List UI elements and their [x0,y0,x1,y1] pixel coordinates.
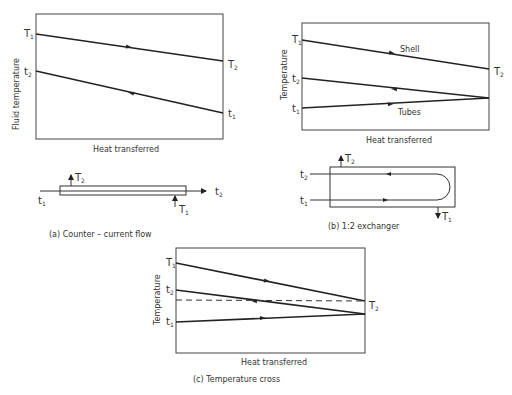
label-T2: T2 [227,59,238,71]
arrow-right-icon [383,198,388,202]
caption-a: (a) Counter – current flow [49,230,152,239]
cold-fluid-line [36,71,223,113]
x-axis-label: Heat transferred [241,358,307,367]
x-axis-label: Heat transferred [93,145,159,154]
schem-T1: T1 [441,211,452,223]
caption-b: (b) 1:2 exchanger [328,222,400,231]
label-t2: t2 [166,284,174,296]
schem-T2: T2 [344,153,355,165]
label-T1: T1 [165,257,176,269]
heat-exchanger-diagrams: T1 T2 t2 t1 Fluid temperature Heat trans… [0,0,512,395]
schem-t2: t2 [215,186,223,198]
label-t1: t1 [166,316,174,328]
shell-label: Shell [400,45,420,54]
label-T2: T2 [368,300,379,312]
label-t2: t2 [292,73,300,85]
panel-b-1-2-exchanger: Shell Tubes T1 T2 t2 t1 Temperature Heat… [280,23,504,231]
u-tube [310,174,450,200]
label-t2: t2 [24,66,32,78]
tubes-label: Tubes [397,108,421,117]
shell-box [330,167,455,207]
label-T2: T2 [493,66,504,78]
schem-t1: t1 [38,195,46,207]
y-axis-label: Temperature [280,49,289,101]
tube-pass-1-line [302,98,489,108]
schem-T1: T1 [178,204,189,216]
panel-c-temperature-cross: T1 T2 t2 t1 Temperature Heat transferred… [153,248,379,384]
tube-pass-2-line [176,290,365,314]
schem-T2: T2 [74,172,85,184]
label-t1: t1 [292,103,300,115]
cross-reference-dashed-line [176,300,365,301]
plot-frame-b [302,23,489,130]
x-axis-label: Heat transferred [366,136,432,145]
y-axis-label: Fluid temperature [12,58,21,130]
label-T1: T1 [291,34,302,46]
schem-t2: t2 [300,169,308,181]
arrow-left-icon [386,172,391,176]
tube-pass-1-line [176,314,365,322]
shell-line [302,40,489,69]
arrow-right-icon [260,316,266,320]
y-axis-label: Temperature [153,274,162,326]
label-T1: T1 [23,28,34,40]
schem-t1: t1 [300,195,308,207]
panel-a-counter-current: T1 T2 t2 t1 Fluid temperature Heat trans… [12,14,238,239]
label-t1: t1 [228,108,236,120]
hot-fluid-line [176,263,365,301]
caption-c: (c) Temperature cross [193,375,280,384]
